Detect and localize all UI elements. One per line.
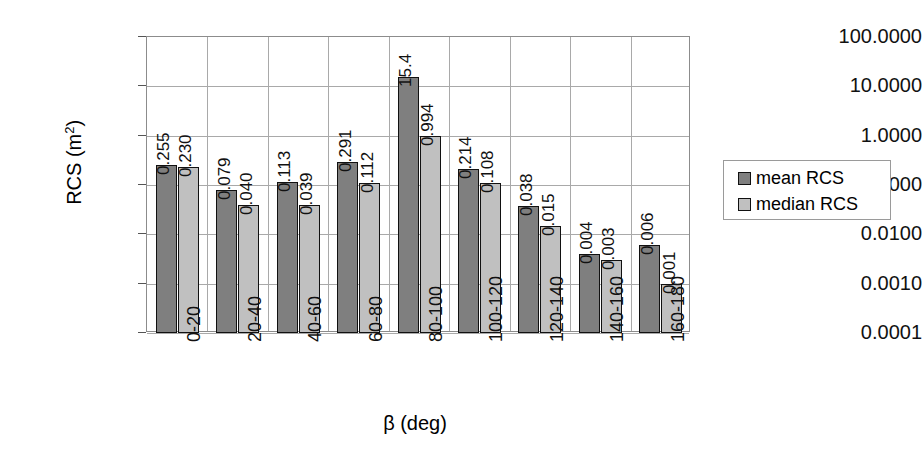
data-label: 0.113 <box>276 151 293 192</box>
gridline-vertical <box>570 37 571 331</box>
gridline-vertical <box>631 37 632 331</box>
x-tick-label-140-160: 140-160 <box>608 276 626 342</box>
x-tick-label-120-140: 120-140 <box>548 276 566 342</box>
y-axis-title-prefix: RCS (m <box>63 134 85 205</box>
y-tick-mark <box>138 85 146 86</box>
data-label: 0.079 <box>216 158 233 201</box>
data-label: 0.039 <box>298 173 315 216</box>
y-tick-label: 0.0001 <box>790 322 922 342</box>
gridline-vertical <box>389 37 390 331</box>
x-tick-label-160-180: 160-180 <box>669 276 687 342</box>
bar-mean-60-80[interactable] <box>337 162 358 333</box>
gridline-vertical <box>268 37 269 331</box>
data-label: 0.004 <box>578 221 595 264</box>
y-tick-mark <box>138 135 146 136</box>
y-tick-mark <box>138 36 146 37</box>
legend-label-mean: mean RCS <box>756 169 844 187</box>
y-tick-label: 0.0010 <box>790 273 922 293</box>
legend-item-mean-rcs[interactable]: mean RCS <box>738 169 844 187</box>
y-axis-title-exponent: 2 <box>62 127 77 134</box>
rcs-bar-chart: RCS (m2) 100.000010.00001.00000.10000.01… <box>0 0 922 456</box>
y-tick-mark <box>138 283 146 284</box>
data-label: 0.112 <box>359 151 376 192</box>
bar-mean-160-180[interactable] <box>639 245 660 333</box>
y-tick-label: 0.0100 <box>790 223 922 243</box>
y-tick-label: 10.0000 <box>790 75 922 95</box>
data-label: 15.4 <box>397 54 414 87</box>
data-label: 0.214 <box>457 136 474 179</box>
y-axis-title-suffix: ) <box>63 120 85 127</box>
y-tick-label: 100.0000 <box>790 26 922 46</box>
legend: mean RCS median RCS <box>723 160 891 220</box>
y-tick-mark <box>138 233 146 234</box>
x-tick-label-60-80: 60-80 <box>367 296 385 342</box>
bar-mean-0-20[interactable] <box>156 165 177 333</box>
data-label: 0.108 <box>479 151 496 194</box>
legend-item-median-rcs[interactable]: median RCS <box>738 195 858 213</box>
bar-mean-120-140[interactable] <box>518 206 539 333</box>
data-label: 0.230 <box>177 135 194 178</box>
x-tick-label-80-100: 80-100 <box>427 286 445 342</box>
bar-mean-140-160[interactable] <box>579 254 600 333</box>
data-label: 0.255 <box>155 132 172 175</box>
legend-swatch-median-icon <box>738 198 751 211</box>
bar-mean-20-40[interactable] <box>216 190 237 333</box>
legend-label-median: median RCS <box>756 195 858 213</box>
gridline-vertical <box>207 37 208 331</box>
gridline-vertical <box>449 37 450 331</box>
bar-mean-100-120[interactable] <box>458 169 479 333</box>
y-tick-mark <box>138 332 146 333</box>
x-axis-title: β (deg) <box>300 412 530 435</box>
data-label: 0.003 <box>600 228 617 271</box>
gridline-vertical <box>328 37 329 331</box>
y-axis-title: RCS (m2) <box>62 52 87 272</box>
data-label: 0.015 <box>540 193 557 236</box>
data-label: 0.006 <box>639 213 656 256</box>
y-tick-mark <box>138 184 146 185</box>
x-tick-label-20-40: 20-40 <box>246 296 264 342</box>
data-label: 0.040 <box>238 172 255 215</box>
x-tick-label-40-60: 40-60 <box>306 296 324 342</box>
x-tick-label-100-120: 100-120 <box>487 276 505 342</box>
data-label: 0.291 <box>337 130 354 173</box>
gridline-vertical <box>510 37 511 331</box>
data-label: 0.994 <box>419 103 436 146</box>
x-tick-label-0-20: 0-20 <box>185 306 203 342</box>
y-tick-label: 1.0000 <box>790 125 922 145</box>
legend-swatch-mean-icon <box>738 172 751 185</box>
data-label: 0.038 <box>518 173 535 216</box>
bar-mean-40-60[interactable] <box>277 182 298 333</box>
bar-mean-80-100[interactable] <box>398 77 419 333</box>
